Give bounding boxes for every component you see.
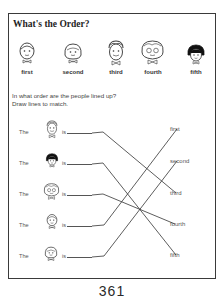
row-2-is: is — [62, 160, 66, 166]
bald-man-face-icon — [45, 213, 59, 230]
black-hair-girl-face-icon — [45, 152, 59, 168]
row-1-is: is — [62, 129, 66, 135]
black-hair-girl-face-icon — [186, 43, 206, 65]
grandma-glasses-face-icon — [140, 39, 165, 66]
instruction-line-1: In what order are the people lined up? — [12, 92, 116, 99]
worksheet-title: What's the Order? — [13, 19, 90, 29]
lineup-label-fifth: fifth — [190, 69, 201, 75]
row-2-answer-blank[interactable] — [67, 164, 92, 165]
row-3-answer-blank[interactable] — [67, 195, 92, 196]
row-2-the: The — [19, 160, 29, 166]
answer-label-fourth[interactable]: fourth — [170, 221, 185, 227]
bald-man-face-icon — [17, 41, 37, 65]
row-4-answer-blank[interactable] — [67, 226, 92, 227]
row-5-answer-blank[interactable] — [67, 257, 92, 258]
answer-label-first[interactable]: first — [170, 126, 180, 132]
row-1-the: The — [19, 129, 29, 135]
girl-bob-face-icon — [43, 245, 59, 262]
grandma-glasses-face-icon — [43, 182, 60, 201]
answer-label-fifth[interactable]: fifth — [170, 252, 180, 258]
row-3-the: The — [19, 191, 29, 197]
page-number: 361 — [0, 283, 224, 299]
boy-face-icon — [45, 119, 59, 139]
answer-label-second[interactable]: second — [170, 158, 189, 164]
lineup-label-second: second — [62, 69, 83, 75]
lineup-label-fourth: fourth — [144, 69, 161, 75]
girl-bob-face-icon — [62, 41, 84, 65]
row-4-is: is — [62, 222, 66, 228]
lineup-label-third: third — [109, 69, 122, 75]
row-5-is: is — [62, 253, 66, 259]
instruction-line-2: Draw lines to match. — [12, 100, 68, 107]
lineup-label-first: first — [21, 69, 32, 75]
row-5-the: The — [19, 253, 29, 259]
answer-label-third[interactable]: third — [170, 190, 182, 196]
boy-face-icon — [106, 39, 126, 66]
row-4-the: The — [19, 222, 29, 228]
row-3-is: is — [62, 191, 66, 197]
row-1-answer-blank[interactable] — [67, 133, 92, 134]
